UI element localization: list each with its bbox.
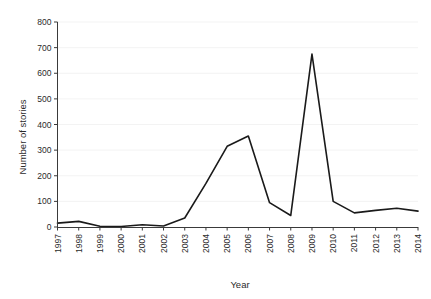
chart-figure: 0100200300400500600700800 19971998199920… [0,0,431,299]
x-tick-label: 1999 [95,234,105,253]
y-tick-label: 500 [37,94,51,104]
y-tick-label: 600 [37,68,51,78]
x-tick-label: 2006 [243,234,253,253]
line-chart: 0100200300400500600700800 19971998199920… [0,0,431,299]
y-tick-label: 200 [37,171,51,181]
x-tick-label: 2003 [180,234,190,253]
x-tick-label: 2007 [265,234,275,253]
y-tick-label: 100 [37,196,51,206]
x-tick-label: 2011 [349,234,359,253]
x-tick-label: 2010 [328,234,338,253]
x-tick-label: 2013 [392,234,402,253]
x-tick-label: 2002 [159,234,169,253]
x-tick-label: 2014 [413,234,423,253]
x-tick-label: 2008 [286,234,296,253]
x-tick-label: 2009 [307,234,317,253]
x-tick-label: 2012 [371,234,381,253]
x-tick-label: 2001 [137,234,147,253]
y-tick-label: 700 [37,43,51,53]
x-tick-label: 2004 [201,234,211,253]
x-tick-label: 1998 [74,234,84,253]
y-tick-label: 0 [47,222,52,232]
x-tick-label: 2000 [116,234,126,253]
chart-background [0,0,431,299]
x-axis-title: Year [230,279,249,290]
y-tick-label: 300 [37,145,51,155]
x-tick-label: 2005 [222,234,232,253]
y-tick-label: 800 [37,17,51,27]
y-tick-label: 400 [37,120,51,130]
x-tick-label: 1997 [53,234,63,253]
y-axis-title: Number of stories [17,99,28,174]
